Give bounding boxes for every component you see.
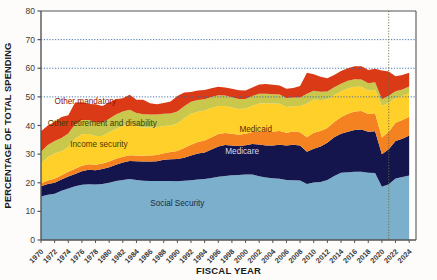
y-tick-label-0: 0 xyxy=(30,235,35,245)
x-tick-label-2024: 2024 xyxy=(396,246,415,265)
y-tick-label-40: 40 xyxy=(26,121,36,131)
x-axis-title: FISCAL YEAR xyxy=(196,265,261,276)
label-other-retirement: Other retirement and disability xyxy=(48,119,158,128)
stacked-area-chart: 0102030405060708019701972197419761978198… xyxy=(0,0,437,280)
label-medicare: Medicare xyxy=(225,147,259,156)
y-tick-label-70: 70 xyxy=(26,35,36,45)
y-tick-label-80: 80 xyxy=(26,6,36,16)
label-social-security: Social Security xyxy=(150,199,205,208)
y-tick-label-10: 10 xyxy=(26,206,36,216)
label-income-security: Income security xyxy=(70,140,128,149)
label-medicaid: Medicaid xyxy=(239,125,272,134)
y-axis-title: PERCENTAGE OF TOTAL SPENDING xyxy=(3,43,13,209)
y-tick-label-60: 60 xyxy=(26,63,36,73)
y-tick-label-50: 50 xyxy=(26,92,36,102)
y-tick-label-30: 30 xyxy=(26,149,36,159)
label-other-mandatory: Other mandatory xyxy=(55,97,117,106)
y-tick-label-20: 20 xyxy=(26,178,36,188)
chart-svg: 0102030405060708019701972197419761978198… xyxy=(0,0,437,280)
